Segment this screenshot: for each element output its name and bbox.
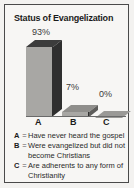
legend-description: Were evangelized but did not become Chri… bbox=[28, 141, 132, 161]
chart-legend: A = Have never heard the gospel B = Were… bbox=[14, 131, 132, 181]
chart-title: Status of Evangelization bbox=[14, 13, 129, 23]
legend-description: Have never heard the gospel bbox=[28, 131, 132, 141]
legend-item: A = Have never heard the gospel bbox=[14, 131, 132, 141]
legend-item: B = Were evangelized but did not become … bbox=[14, 141, 132, 161]
chart-frame: Status of Evangelization 93% 7% 0% A B C bbox=[4, 4, 129, 183]
value-label-b: 7% bbox=[66, 82, 79, 92]
plot-area: 93% 7% 0% A B C bbox=[9, 25, 134, 125]
axis-tick-label-c: C bbox=[103, 117, 110, 127]
axis-tick-label-b: B bbox=[70, 117, 77, 127]
value-label-a: 93% bbox=[32, 27, 50, 37]
legend-item: C = Are adherents to any form of Christi… bbox=[14, 161, 132, 181]
axis-tick-label-a: A bbox=[35, 117, 42, 127]
legend-description: Are adherents to any form of Christianit… bbox=[28, 161, 132, 181]
legend-key: C bbox=[14, 161, 21, 171]
legend-key: B bbox=[14, 141, 21, 151]
bar-a bbox=[26, 47, 53, 116]
bar-a-side-face bbox=[53, 40, 62, 116]
legend-equals: = bbox=[21, 161, 28, 171]
legend-equals: = bbox=[21, 131, 28, 141]
figure-container: Status of Evangelization 93% 7% 0% A B C bbox=[0, 0, 134, 188]
legend-equals: = bbox=[21, 141, 28, 151]
value-label-c: 0% bbox=[99, 89, 112, 99]
legend-key: A bbox=[14, 131, 21, 141]
